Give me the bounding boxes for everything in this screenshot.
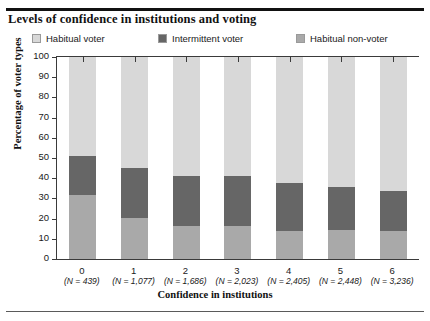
x-category-value: 3 xyxy=(234,265,239,276)
y-axis-tick xyxy=(52,97,57,98)
y-axis-tick-label: 70 xyxy=(20,112,49,121)
bar-segment[interactable] xyxy=(224,176,251,225)
x-axis-tick xyxy=(290,57,291,62)
y-axis-tick-label: 60 xyxy=(20,132,49,141)
x-axis-tick xyxy=(186,57,187,62)
plot-wrapper: Percentage of voter types 01020304050607… xyxy=(0,0,430,321)
x-category-value: 5 xyxy=(338,265,343,276)
bar-column[interactable] xyxy=(69,57,96,259)
x-category-value: 6 xyxy=(389,265,394,276)
y-axis-tick-label: 100 xyxy=(20,51,49,60)
y-axis-tick xyxy=(52,138,57,139)
bar-group xyxy=(57,57,419,259)
bar-segment[interactable] xyxy=(380,231,407,259)
bar-segment[interactable] xyxy=(121,218,148,259)
y-axis-tick-label: 40 xyxy=(20,172,49,181)
y-axis-tick-label: 50 xyxy=(20,152,49,161)
y-axis-tick xyxy=(52,57,57,58)
bar-segment[interactable] xyxy=(380,57,407,191)
y-axis-tick xyxy=(52,219,57,220)
y-axis-tick xyxy=(52,239,57,240)
bar-segment[interactable] xyxy=(276,57,303,183)
y-axis-tick-label: 90 xyxy=(20,71,49,80)
x-axis-tick xyxy=(393,57,394,62)
figure-container: Levels of confidence in institutions and… xyxy=(0,0,430,321)
bar-segment[interactable] xyxy=(121,168,148,217)
bar-segment[interactable] xyxy=(69,57,96,156)
bar-column[interactable] xyxy=(380,57,407,259)
bar-segment[interactable] xyxy=(328,230,355,259)
y-axis-tick xyxy=(52,77,57,78)
bar-segment[interactable] xyxy=(328,57,355,187)
bar-segment[interactable] xyxy=(224,226,251,259)
bar-column[interactable] xyxy=(276,57,303,259)
bar-segment[interactable] xyxy=(276,231,303,259)
x-axis-tick xyxy=(83,57,84,62)
x-category-value: 0 xyxy=(79,265,84,276)
bar-segment[interactable] xyxy=(121,57,148,168)
bar-segment[interactable] xyxy=(276,183,303,230)
y-axis-tick-label: 80 xyxy=(20,91,49,100)
x-axis-title: Confidence in institutions xyxy=(0,289,430,300)
x-axis-tick xyxy=(135,57,136,62)
x-category-sample-size: (N = 3,236) xyxy=(360,276,424,287)
y-axis-tick-label: 20 xyxy=(20,213,49,222)
bar-column[interactable] xyxy=(173,57,200,259)
y-axis-tick xyxy=(52,198,57,199)
y-axis-tick xyxy=(52,178,57,179)
bar-segment[interactable] xyxy=(328,187,355,229)
y-axis-tick-label: 10 xyxy=(20,233,49,242)
y-axis-tick-label: 0 xyxy=(20,253,49,262)
x-axis-category-label: 6(N = 3,236) xyxy=(360,265,424,287)
bar-column[interactable] xyxy=(328,57,355,259)
x-category-value: 4 xyxy=(286,265,291,276)
x-category-value: 1 xyxy=(131,265,136,276)
bar-segment[interactable] xyxy=(69,195,96,259)
x-category-value: 2 xyxy=(183,265,188,276)
x-axis-tick xyxy=(341,57,342,62)
y-axis-tick-label: 30 xyxy=(20,192,49,201)
bar-segment[interactable] xyxy=(173,176,200,225)
y-axis-tick xyxy=(52,118,57,119)
y-axis-tick xyxy=(52,259,57,260)
bar-segment[interactable] xyxy=(380,191,407,230)
bar-segment[interactable] xyxy=(224,57,251,176)
bar-segment[interactable] xyxy=(173,226,200,259)
bar-column[interactable] xyxy=(121,57,148,259)
x-axis-tick xyxy=(238,57,239,62)
bar-segment[interactable] xyxy=(173,57,200,176)
y-axis-tick xyxy=(52,158,57,159)
plot-area xyxy=(56,56,419,260)
bar-column[interactable] xyxy=(224,57,251,259)
bar-segment[interactable] xyxy=(69,156,96,195)
